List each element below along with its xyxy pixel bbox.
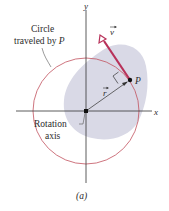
rotation-label-line2: axis [45,131,61,141]
circle-label-line2: traveled by P [14,36,65,46]
circle-label-line1: Circle [31,24,54,34]
rotation-label-line1: Rotation [34,119,67,129]
circle-label-leader [42,48,51,67]
point-p-label: P [134,76,141,86]
velocity-label-arrowhead [115,26,118,28]
x-axis-label: x [153,107,158,117]
figure-caption: (a) [76,191,87,202]
radius-label: r [103,88,107,98]
point-p [128,78,132,82]
rotation-diagram: Circle traveled by P Rotation axis x y P… [0,0,169,211]
velocity-label: v [110,27,114,37]
y-axis-label: y [83,1,88,11]
rotation-axis-marker [84,109,88,113]
